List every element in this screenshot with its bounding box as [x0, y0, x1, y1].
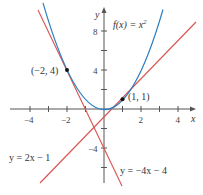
point-label-minus2-4: (−2, 4) [31, 65, 58, 77]
line-label-minus4x-minus-4: y = −4x − 4 [120, 165, 167, 176]
point-label-1-1: (1, 1) [128, 91, 150, 103]
tangent-line-2x-minus-1 [40, 22, 196, 183]
function-label: f(x) = x2 [113, 18, 147, 31]
y-tick-label-8: 8 [93, 27, 98, 37]
function-label-exponent: 2 [143, 18, 147, 26]
x-axis-arrow-icon [190, 107, 196, 112]
chart: −4 −2 2 4 8 4 −4 x y (−2, 4) (1, 1) f(x)… [0, 0, 203, 195]
y-tick-label-m4: −4 [88, 144, 98, 154]
point-1-1 [121, 97, 125, 101]
point-minus2-4 [65, 68, 69, 72]
x-tick-label-m2: −2 [61, 115, 71, 125]
x-tick-label-2: 2 [139, 115, 144, 125]
function-label-text: f(x) = x [113, 19, 144, 31]
line-label-2x-minus-1: y = 2x − 1 [9, 152, 50, 163]
plot-area: −4 −2 2 4 8 4 −4 x y (−2, 4) (1, 1) f(x)… [0, 0, 203, 195]
y-axis-arrow-icon [102, 7, 107, 13]
x-tick-label-4: 4 [176, 115, 181, 125]
y-tick-label-4: 4 [93, 66, 98, 76]
x-tick-label-m4: −4 [24, 115, 34, 125]
y-axis-label: y [94, 9, 100, 20]
x-axis-label: x [190, 113, 196, 124]
tangent-line-minus4x-minus-4 [38, 10, 122, 186]
